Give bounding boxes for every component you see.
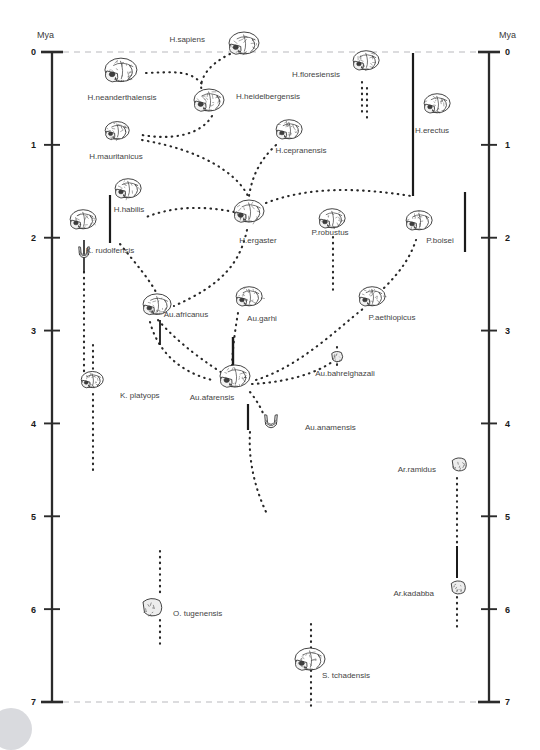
skull-eye-socket xyxy=(84,381,88,384)
mandible-tooth xyxy=(275,420,277,422)
neanderthal-to-heidelberg xyxy=(146,72,202,84)
skull-tooth xyxy=(286,137,287,139)
axis-tick-label: 5 xyxy=(31,512,36,522)
skull-tooth xyxy=(291,137,292,139)
specimen-glyph-P-robustus xyxy=(319,209,345,229)
axis-tick-label: 0 xyxy=(31,47,36,57)
skull-tooth xyxy=(371,304,372,306)
skull-tooth xyxy=(365,68,366,70)
axis-tick-label: 1 xyxy=(31,140,36,150)
taxon-label-Au-afarensis: Au.afarensis xyxy=(190,393,234,402)
taxon-label-H-neanderthalensis: H.neanderthalensis xyxy=(88,93,157,102)
skull-tooth xyxy=(246,304,247,306)
skull-eye-socket xyxy=(198,102,203,106)
taxon-label-H-erectus: H.erectus xyxy=(415,126,449,135)
axis-tick-label: 7 xyxy=(31,697,36,707)
taxon-label-P-aethiopicus: P.aethiopicus xyxy=(369,313,416,322)
left-axis-unit: Mya xyxy=(37,30,54,40)
ergaster-to-erectus xyxy=(266,190,411,203)
skull-tooth xyxy=(419,228,420,230)
branch-lines xyxy=(120,54,416,516)
specimen-glyph-P-aethiopicus xyxy=(359,287,386,306)
fragment-outline xyxy=(451,581,465,594)
africanus-to-afarensis xyxy=(158,320,224,374)
taxon-label-P-robustus: P.robustus xyxy=(311,228,348,237)
axis-tick-label: 4 xyxy=(31,419,36,429)
skull-tooth xyxy=(288,137,289,139)
right-axis-unit: Mya xyxy=(499,30,516,40)
axis-tick-label: 0 xyxy=(505,47,510,57)
specimen-glyph-H-habilis xyxy=(115,179,141,200)
skull-tooth xyxy=(287,137,288,139)
taxon-label-K-platyops: K. platyops xyxy=(120,391,160,400)
skull-tooth xyxy=(80,227,81,229)
specimen-glyph-K-platyops xyxy=(81,371,103,388)
specimen-glyph-Au-anamensis xyxy=(265,415,278,428)
specimen-glyph-P-boisei xyxy=(406,211,432,231)
skull-tooth xyxy=(251,304,252,306)
taxon-label-Ar-kadabba: Ar.kadabba xyxy=(394,589,435,598)
taxon-label-Au-garhi: Au.garhi xyxy=(247,314,277,323)
skull-tooth xyxy=(81,227,82,229)
axis-tick-label: 6 xyxy=(31,605,36,615)
specimen-glyph-H-floresiensis xyxy=(353,51,379,71)
skull-tooth xyxy=(416,228,417,230)
specimen-glyph-Ar-kadabba xyxy=(451,581,465,594)
taxon-label-H-ergaster: H.ergaster xyxy=(239,236,277,245)
skull-tooth xyxy=(364,68,365,70)
skull-tooth xyxy=(374,304,375,306)
taxon-label-O-tugenensis: O. tugenensis xyxy=(173,609,222,618)
specimen-glyph-S-tchadensis xyxy=(295,648,325,670)
aethiopicus-to-boisei xyxy=(384,240,416,288)
taxon-label-H-habilis: H.habilis xyxy=(114,205,145,214)
axis-tick-label: 1 xyxy=(505,140,510,150)
skull-tooth xyxy=(130,196,131,198)
ergaster-to-habilis xyxy=(144,208,234,218)
skull-tooth xyxy=(418,228,419,230)
skull-tooth xyxy=(435,111,436,113)
specimen-glyph-O-tugenensis xyxy=(143,599,162,616)
fragment-outline xyxy=(452,458,466,471)
skull-tooth xyxy=(125,196,126,198)
skull-tooth xyxy=(434,111,435,113)
axis-tick-label: 7 xyxy=(505,697,510,707)
skull-tooth xyxy=(128,196,129,198)
skull-eye-socket xyxy=(363,298,368,302)
skull-eye-socket xyxy=(109,72,115,77)
mauritanicus-to-ergaster xyxy=(142,140,248,196)
axis-tick-label: 2 xyxy=(31,233,36,243)
specimen-glyph-Au-garhi xyxy=(236,287,265,306)
taxon-labels: H.sapiensH.neanderthalensisH.heidelberge… xyxy=(86,35,454,680)
afarensis-to-anamensis xyxy=(250,392,264,416)
specimen-glyph-H-heidelbergensis xyxy=(194,89,224,111)
specimen-glyph-H-mauritanicus xyxy=(105,122,129,141)
taxon-label-H-mauritanicus: H.mauritanicus xyxy=(89,152,142,161)
skull-tooth xyxy=(370,304,371,306)
specimen-glyph-Au-bahrelghazali xyxy=(332,352,343,364)
taxon-label-H-cepranensis: H.cepranensis xyxy=(275,146,326,155)
axis-tick-label: 2 xyxy=(505,233,510,243)
taxon-label-Au-anamensis: Au.anamensis xyxy=(305,423,356,432)
specimen-glyph-H-neanderthalensis xyxy=(105,58,137,82)
axis-tick-label: 3 xyxy=(31,326,36,336)
skull-tooth xyxy=(363,68,364,70)
taxon-label-Au-bahrelghazali: Au.bahrelghazali xyxy=(315,369,375,378)
taxon-label-H-sapiens: H.sapiens xyxy=(169,35,205,44)
left-axis: 01234567 xyxy=(31,47,63,707)
skull-tooth xyxy=(248,304,249,306)
skull-tooth xyxy=(421,228,422,230)
skull-tooth xyxy=(85,227,86,229)
axis-tick-label: 5 xyxy=(505,512,510,522)
taxon-label-H-heidelbergensis: H.heidelbergensis xyxy=(236,92,300,101)
skull-glyphs xyxy=(70,32,466,670)
skull-tooth xyxy=(417,228,418,230)
skull-eye-socket xyxy=(147,306,152,310)
specimen-glyph-Au-afarensis xyxy=(220,365,250,387)
specimen-glyph-H-cepranensis xyxy=(276,120,302,139)
skull-tooth xyxy=(289,137,290,139)
specimen-glyph-K-rudolfensis xyxy=(70,210,96,229)
axis-tick-label: 4 xyxy=(505,419,510,429)
axis-tick-label: 3 xyxy=(505,326,510,336)
